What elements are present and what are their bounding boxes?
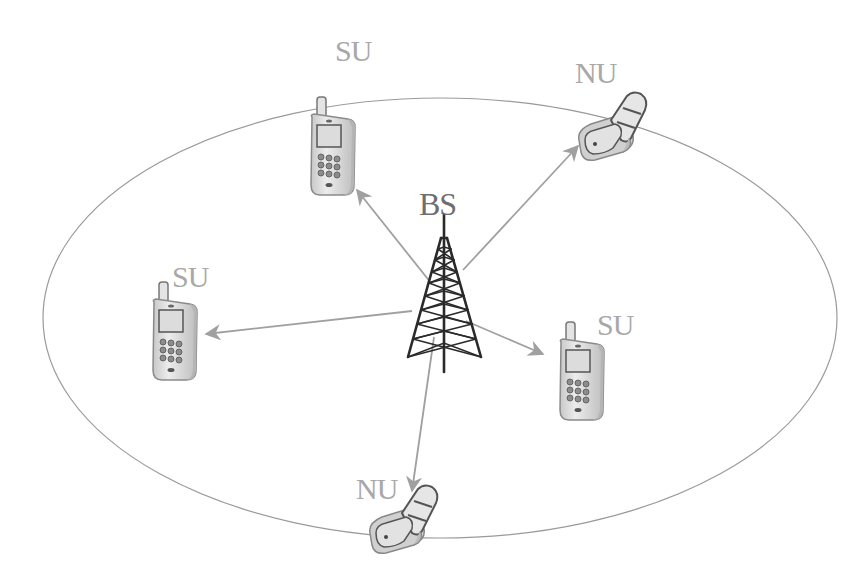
arrow-bs-to-nu-bottom [412,337,434,491]
candybar-phone-icon [153,282,197,380]
node-label-su-top: SU [335,36,371,66]
base-station-label: BS [419,188,456,220]
arrow-bs-to-nu-top-right [463,146,578,270]
network-diagram [0,0,867,584]
antenna-tower-icon [408,215,481,372]
flip-phone-icon [579,92,647,160]
node-label-nu-top-right: NU [575,58,616,88]
candybar-phone-icon [311,97,355,195]
node-label-su-left: SU [172,262,208,292]
node-label-su-right: SU [597,310,633,340]
link-arrows [206,146,578,491]
arrow-bs-to-su-left [206,311,412,334]
node-label-nu-bottom: NU [356,474,397,504]
